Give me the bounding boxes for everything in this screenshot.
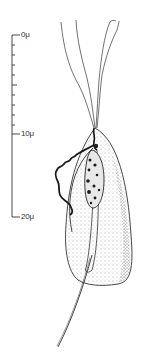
scale-bar <box>12 35 20 217</box>
cell-body <box>66 128 132 285</box>
flagellum-3 <box>96 20 116 128</box>
scale-label-0: 0μ <box>21 31 30 39</box>
figure-canvas <box>0 0 143 353</box>
flagellum-1 <box>61 22 94 128</box>
flagellum-4 <box>97 21 119 128</box>
scale-label-10: 10μ <box>21 130 34 138</box>
anterior-flagella <box>61 20 119 128</box>
scale-label-20: 20μ <box>21 213 34 221</box>
flagellum-2 <box>76 20 95 128</box>
